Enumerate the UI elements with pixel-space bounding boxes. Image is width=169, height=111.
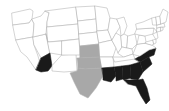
- state-LA[interactable]: [102, 67, 116, 82]
- state-MN[interactable]: [95, 6, 110, 31]
- us-map-svg: [0, 0, 169, 111]
- state-AL[interactable]: [122, 65, 131, 80]
- state-layer-west: [12, 7, 80, 72]
- state-TX[interactable]: [70, 68, 103, 98]
- state-AR[interactable]: [100, 57, 114, 68]
- state-SD[interactable]: [78, 19, 97, 34]
- state-MT[interactable]: [45, 7, 78, 27]
- state-layer-northeast: [133, 9, 168, 56]
- state-MS[interactable]: [114, 66, 123, 81]
- state-NM[interactable]: [52, 54, 77, 72]
- state-OK[interactable]: [77, 57, 102, 69]
- state-ID[interactable]: [32, 11, 49, 37]
- state-CO[interactable]: [62, 39, 80, 55]
- state-NJ[interactable]: [153, 32, 158, 39]
- state-KS[interactable]: [80, 44, 100, 58]
- state-WV[interactable]: [137, 35, 146, 44]
- state-RI[interactable]: [161, 27, 163, 31]
- state-ND[interactable]: [76, 6, 96, 21]
- state-NE[interactable]: [79, 32, 99, 46]
- state-FL[interactable]: [124, 79, 150, 104]
- state-OH[interactable]: [127, 34, 137, 49]
- state-ME[interactable]: [160, 9, 168, 24]
- us-choropleth-map-figure: [0, 0, 169, 111]
- state-layer-midwest: [95, 6, 137, 68]
